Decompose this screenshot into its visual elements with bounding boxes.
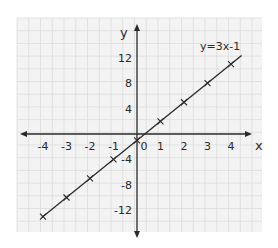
x-tick-label: 0 <box>141 140 148 153</box>
y-tick-label: -12 <box>114 204 132 217</box>
x-tick-label: 4 <box>228 140 235 153</box>
x-tick-label: -4 <box>38 140 49 153</box>
y-tick-label: -4 <box>121 153 132 166</box>
x-tick-label: -2 <box>85 140 96 153</box>
y-tick-label: 4 <box>125 103 132 116</box>
x-axis-label: x <box>255 138 263 153</box>
x-tick-label: 2 <box>181 140 188 153</box>
equation-label: y=3x-1 <box>200 40 240 53</box>
y-tick-label: -8 <box>121 179 132 192</box>
y-tick-label: 8 <box>125 77 132 90</box>
y-axis-label: y <box>120 25 128 40</box>
y-axis-down-arrow-icon <box>134 231 140 238</box>
x-tick-label: 1 <box>157 140 164 153</box>
y-tick-label: 12 <box>118 52 132 65</box>
x-tick-label: 3 <box>204 140 211 153</box>
x-tick-label: -1 <box>108 140 119 153</box>
chart: x y -4-3-2-101234 1284-4-8-12 y=3x-1 <box>0 0 278 248</box>
x-tick-label: -3 <box>61 140 72 153</box>
